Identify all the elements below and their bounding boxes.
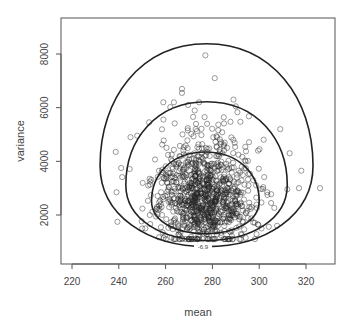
data-points xyxy=(113,53,323,242)
y-tick-label: 4000 xyxy=(39,150,50,173)
x-tick-label: 280 xyxy=(204,276,221,287)
x-axis-label: mean xyxy=(184,306,212,318)
x-tick-label: 320 xyxy=(298,276,315,287)
scatter-plot: -6.9 220240260280300320 2000400060008000… xyxy=(0,0,354,329)
x-tick-label: 300 xyxy=(251,276,268,287)
x-tick-label: 260 xyxy=(157,276,174,287)
y-axis: 2000400060008000 xyxy=(39,42,61,226)
x-axis: 220240260280300320 xyxy=(64,264,315,287)
y-tick-label: 8000 xyxy=(39,42,50,65)
y-tick-label: 6000 xyxy=(39,96,50,119)
contour-label: -6.9 xyxy=(198,244,209,250)
x-tick-label: 240 xyxy=(110,276,127,287)
y-axis-label: variance xyxy=(14,120,26,162)
x-tick-label: 220 xyxy=(64,276,81,287)
y-tick-label: 2000 xyxy=(39,203,50,226)
